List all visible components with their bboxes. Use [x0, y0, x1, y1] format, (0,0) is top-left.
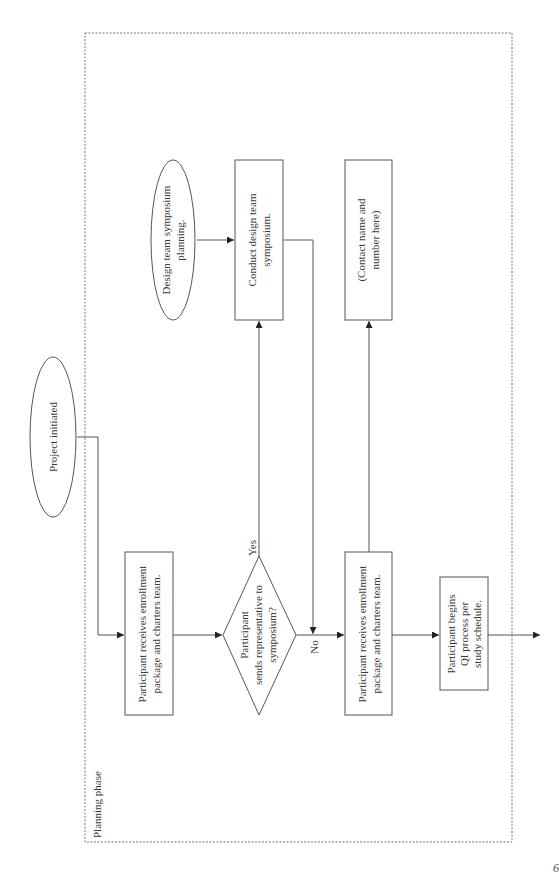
- no-label: No: [308, 640, 320, 654]
- design-planning-line-1: Design team symposium: [160, 185, 172, 294]
- qi-process-line-1: Participant begins: [445, 594, 457, 673]
- qi-process-line-3: study schedule.: [471, 600, 483, 668]
- contact-line-2: number here): [369, 210, 382, 269]
- design-planning-node: [151, 160, 195, 320]
- edge-project-to-enrollment: [77, 437, 124, 635]
- enrollment-box-2-line-2: package and charters team.: [370, 574, 382, 693]
- planning-phase-label: Planning phase: [91, 771, 103, 838]
- decision-line-1: Participant: [238, 611, 250, 659]
- edge-conduct-to-enrollment-2: [283, 240, 313, 634]
- design-planning-line-2: planning.: [174, 219, 186, 260]
- flowchart-canvas: Planning phase Project initiated Partici…: [0, 0, 559, 874]
- qi-process-line-2: QI process per: [458, 602, 470, 666]
- enrollment-box-1-line-1: Participant receives enrollment: [136, 566, 148, 703]
- decision-line-2: sends representative to: [252, 584, 264, 685]
- project-initiated-text: Project initiated: [47, 402, 59, 472]
- conduct-symposium-box: [235, 160, 283, 320]
- enrollment-box-2-line-1: Participant receives enrollment: [356, 566, 368, 703]
- conduct-symposium-line-1: Conduct design team: [246, 193, 258, 286]
- page-number: 6: [553, 861, 559, 874]
- yes-label: Yes: [246, 540, 258, 556]
- enrollment-box-1-line-2: package and charters team.: [150, 574, 162, 693]
- conduct-symposium-line-2: symposium.: [260, 213, 272, 267]
- contact-line-1: (Contact name and: [355, 198, 368, 282]
- enrollment-box-1: [125, 552, 173, 715]
- enrollment-box-2: [345, 552, 392, 715]
- decision-line-3: symposium?: [266, 607, 278, 663]
- planning-phase-container: [85, 33, 512, 842]
